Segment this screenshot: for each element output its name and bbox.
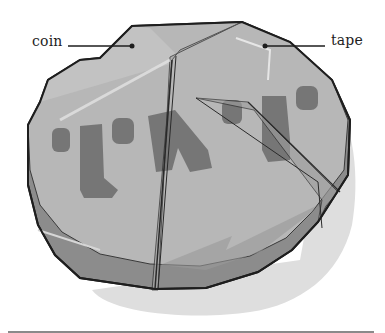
figure: coin tape — [0, 0, 385, 333]
coin-leader-dot — [130, 44, 135, 49]
tape-leader-dot — [263, 44, 268, 49]
coin-label: coin — [32, 33, 63, 49]
taped-coin-illustration — [0, 0, 385, 333]
tape-label: tape — [331, 32, 363, 48]
